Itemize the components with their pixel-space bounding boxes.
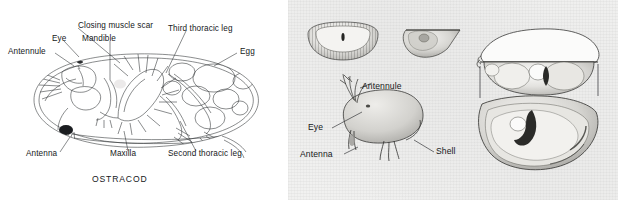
antennule-bristles [39, 72, 62, 99]
shell-interior-lower [479, 96, 598, 170]
label-eye-right: Eye [308, 123, 323, 132]
anatomy-diagram-panel: Closing muscle scar Eye Mandible Third t… [0, 0, 288, 200]
label-eye: Eye [52, 35, 66, 43]
ventral-margin [72, 134, 224, 144]
shell-dorsal-inset [308, 22, 378, 60]
label-maxilla: Maxilla [110, 150, 136, 158]
label-closing-muscle-scar: Closing muscle scar [78, 22, 153, 30]
label-antenna-right: Antenna [300, 150, 333, 159]
label-antenna: Antenna [26, 150, 57, 158]
shell-plate-drawing [288, 0, 618, 200]
internal-anatomy [39, 54, 253, 158]
figure-root: Closing muscle scar Eye Mandible Third t… [0, 0, 618, 200]
closing-muscle-scar-mark [114, 80, 126, 89]
label-egg: Egg [240, 48, 255, 56]
label-shell-right: Shell [436, 147, 456, 156]
head-appendages [62, 66, 101, 110]
label-mandible: Mandible [82, 35, 116, 43]
leader-lines [55, 28, 237, 152]
shell-interior-upper [477, 29, 599, 98]
label-antennule-right: Antennule [362, 82, 402, 91]
shell-valve-inset [403, 30, 460, 57]
third-thoracic-leg [168, 74, 220, 149]
label-third-thoracic-leg: Third thoracic leg [168, 25, 233, 33]
label-antennule: Antennule [8, 48, 46, 56]
label-second-thoracic-leg: Second thoracic leg [168, 150, 242, 158]
shell-plate-panel: Antennule Eye Antenna Shell [288, 0, 618, 200]
figure-caption: OSTRACOD [92, 174, 148, 184]
thoracic-legs [380, 141, 399, 161]
